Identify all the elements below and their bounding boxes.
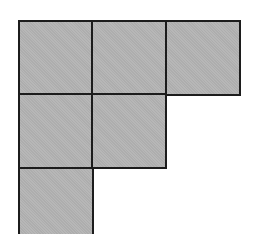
cell-r1-c1 (91, 93, 167, 169)
cell-r2-c0 (18, 167, 94, 234)
cell-r0-c0 (18, 20, 94, 96)
cell-r0-c2 (165, 20, 241, 96)
cell-r1-c0 (18, 93, 94, 169)
young-diagram (0, 0, 258, 234)
cell-r0-c1 (91, 20, 167, 96)
